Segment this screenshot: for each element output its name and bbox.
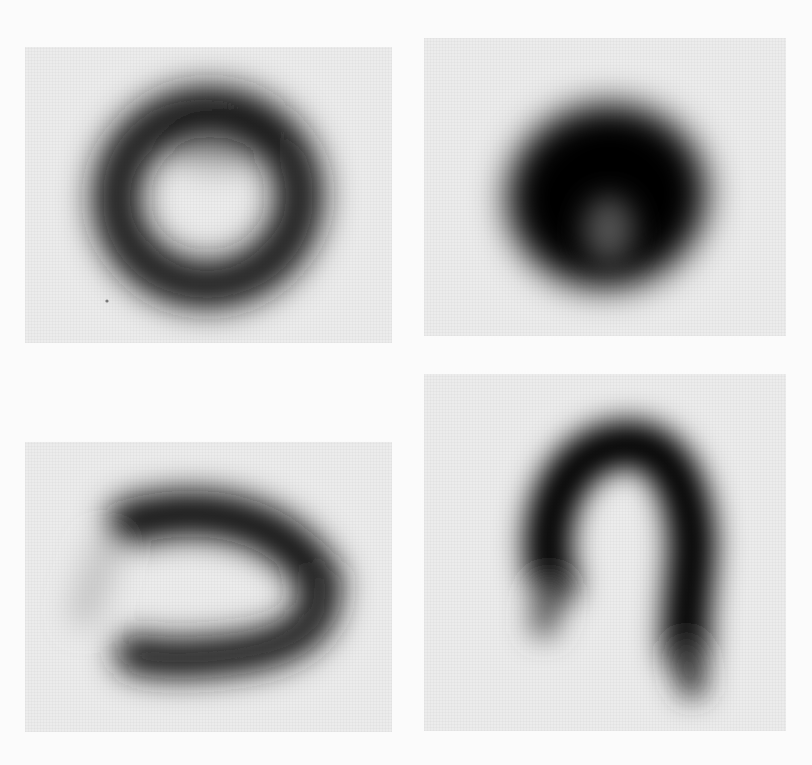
image-panel-bottom-right: inverted U / hook open downward <box>424 374 786 731</box>
horseshoe-shape <box>25 442 392 732</box>
ring-shape <box>25 47 392 343</box>
blob-shape <box>424 38 786 336</box>
image-panel-top-left: ring / donut with light center <box>25 47 392 343</box>
image-panel-bottom-left: horizontal horseshoe / U open to left <box>25 442 392 732</box>
image-panel-top-right: dense dark blob with faint lighter notch… <box>424 38 786 336</box>
speck <box>105 299 108 302</box>
hook-shape <box>424 374 786 731</box>
